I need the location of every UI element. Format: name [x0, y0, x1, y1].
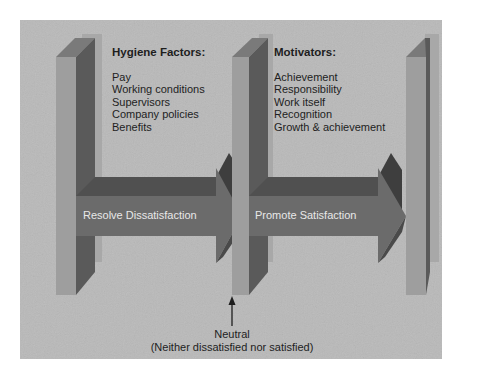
hygiene-list: Pay Working conditions Supervisors Compa… — [112, 71, 205, 134]
hygiene-item: Benefits — [112, 121, 205, 134]
hygiene-factors-block: Hygiene Factors: Pay Working conditions … — [112, 46, 205, 133]
neutral-subtitle: (Neither dissatisfied nor satisfied) — [132, 341, 332, 354]
hygiene-item: Working conditions — [112, 83, 205, 96]
motivator-item: Achievement — [274, 71, 385, 84]
motivators-heading: Motivators: — [274, 46, 385, 59]
hygiene-item: Pay — [112, 71, 205, 84]
motivator-item: Recognition — [274, 108, 385, 121]
motivators-block: Motivators: Achievement Responsibility W… — [274, 46, 385, 133]
motivators-list: Achievement Responsibility Work itself R… — [274, 71, 385, 134]
pillar-right — [406, 34, 439, 295]
neutral-title: Neutral — [132, 328, 332, 341]
pillar-middle — [232, 34, 273, 295]
diagram-panel: Hygiene Factors: Pay Working conditions … — [20, 20, 442, 359]
motivator-item: Work itself — [274, 96, 385, 109]
motivator-item: Responsibility — [274, 83, 385, 96]
motivator-item: Growth & achievement — [274, 121, 385, 134]
pillar-left — [56, 34, 102, 295]
neutral-label: Neutral (Neither dissatisfied nor satisf… — [132, 328, 332, 354]
arrow-label-resolve: Resolve Dissatisfaction — [83, 209, 197, 221]
hygiene-heading: Hygiene Factors: — [112, 46, 205, 59]
hygiene-item: Company policies — [112, 108, 205, 121]
hygiene-item: Supervisors — [112, 96, 205, 109]
arrow-label-promote: Promote Satisfaction — [255, 209, 357, 221]
